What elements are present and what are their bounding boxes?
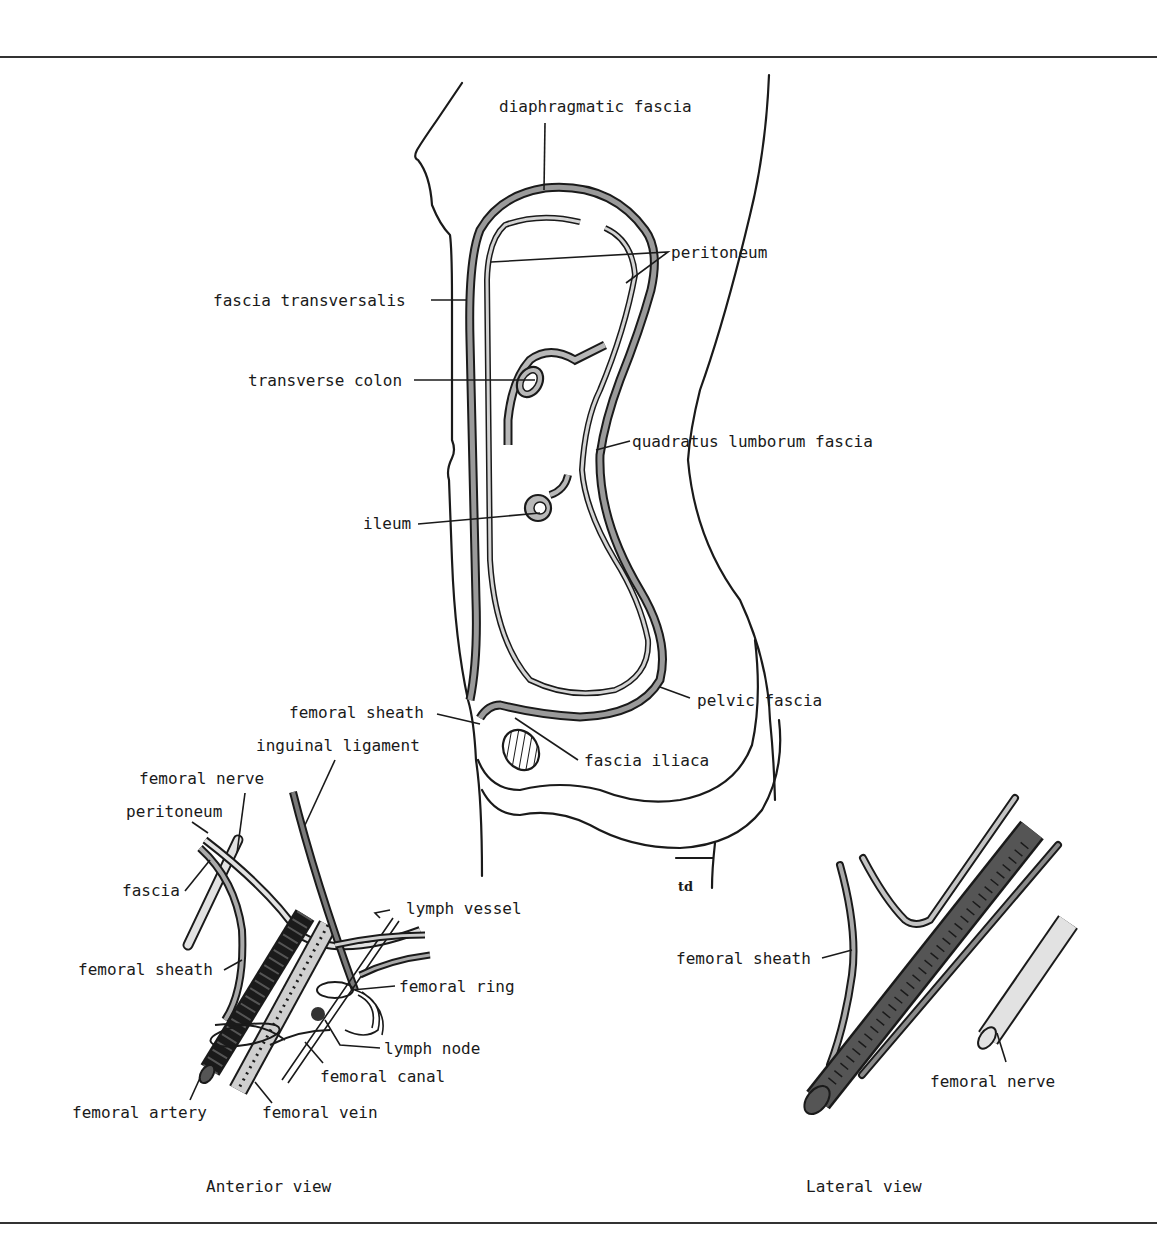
label-peritoneum-anterior: peritoneum: [126, 802, 222, 821]
main-section-labels: diaphragmatic fascia peritoneum fascia t…: [213, 97, 873, 770]
caption-lateral-view: Lateral view: [806, 1177, 922, 1196]
label-femoral-sheath-anterior: femoral sheath: [78, 960, 213, 979]
label-fascia-transversalis: fascia transversalis: [213, 291, 406, 310]
femoral-ring: [317, 982, 353, 998]
label-fascia: fascia: [122, 881, 180, 900]
label-diaphragmatic-fascia: diaphragmatic fascia: [499, 97, 692, 116]
peritoneum-sac: [487, 218, 648, 694]
label-femoral-sheath-lateral: femoral sheath: [676, 949, 811, 968]
label-lymph-vessel: lymph vessel: [406, 899, 522, 918]
label-quadratus-lumborum-fascia: quadratus lumborum fascia: [632, 432, 873, 451]
label-ileum: ileum: [363, 514, 411, 533]
sagittal-section: td: [415, 75, 780, 894]
lateral-view: [799, 798, 1068, 1119]
label-femoral-ring: femoral ring: [399, 977, 515, 996]
label-lymph-node: lymph node: [384, 1039, 480, 1058]
label-peritoneum: peritoneum: [671, 243, 767, 262]
label-femoral-artery: femoral artery: [72, 1103, 207, 1122]
iliacus-section: [496, 723, 546, 776]
label-inguinal-ligament: inguinal ligament: [256, 736, 420, 755]
label-femoral-vein: femoral vein: [262, 1103, 378, 1122]
lymph-node: [311, 1007, 325, 1021]
femoral-nerve-lateral: [988, 922, 1068, 1038]
caption-anterior-view: Anterior view: [206, 1177, 332, 1196]
label-femoral-nerve-lateral: femoral nerve: [930, 1072, 1055, 1091]
label-fascia-iliaca: fascia iliaca: [584, 751, 709, 770]
femoral-sheath-anterior: [200, 848, 242, 1020]
anatomy-figure: td diaphragmatic fascia peritoneum fasci…: [0, 0, 1157, 1237]
label-pelvic-fascia: pelvic fascia: [697, 691, 822, 710]
label-femoral-sheath: femoral sheath: [289, 703, 424, 722]
label-femoral-canal: femoral canal: [320, 1067, 445, 1086]
label-transverse-colon: transverse colon: [248, 371, 402, 390]
label-femoral-nerve-anterior: femoral nerve: [139, 769, 264, 788]
artist-signature: td: [678, 879, 693, 894]
